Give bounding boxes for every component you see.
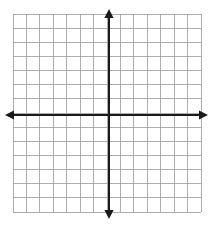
plot-background	[0, 0, 213, 225]
graph-canvas	[0, 0, 213, 225]
coordinate-plane-svg	[0, 0, 213, 225]
